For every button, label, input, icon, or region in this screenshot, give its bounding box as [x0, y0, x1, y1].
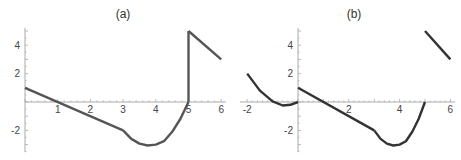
y-tick-label: 2 — [287, 68, 293, 79]
x-tick-label: 4 — [153, 104, 159, 115]
curve-segment-linear — [25, 88, 123, 131]
x-tick-label: 6 — [218, 104, 224, 115]
panel-a-ticks — [25, 31, 221, 152]
curve-segment-linear-2 — [425, 31, 450, 59]
panel-b-ticks — [247, 31, 450, 152]
panel-b-title: (b) — [347, 7, 362, 21]
x-tick-label: 1 — [55, 104, 61, 115]
y-tick-label: 2 — [14, 68, 20, 79]
figure: (a) 12345642-2 (b) -224642-2 — [0, 0, 461, 160]
panel-a-curves — [25, 31, 221, 146]
curve-segment-linear-2 — [189, 31, 222, 59]
panel-b: (b) -224642-2 — [240, 7, 455, 152]
y-tick-label: 4 — [287, 40, 293, 51]
panel-a-title: (a) — [116, 7, 131, 21]
x-tick-label: -2 — [243, 104, 252, 115]
panel-b-curves — [247, 31, 450, 146]
x-tick-label: 2 — [346, 104, 352, 115]
panel-b-tick-labels: -224642-2 — [243, 40, 454, 136]
panel-a-tick-labels: 12345642-2 — [11, 40, 224, 136]
x-tick-label: 4 — [397, 104, 403, 115]
y-tick-label: 4 — [14, 40, 20, 51]
y-tick-label: -2 — [284, 125, 293, 136]
y-tick-label: -2 — [11, 125, 20, 136]
x-tick-label: 2 — [88, 104, 94, 115]
x-tick-label: 3 — [120, 104, 126, 115]
panel-a: (a) 12345642-2 — [11, 7, 226, 152]
x-tick-label: 6 — [448, 104, 454, 115]
curve-segment-linear — [298, 88, 374, 131]
